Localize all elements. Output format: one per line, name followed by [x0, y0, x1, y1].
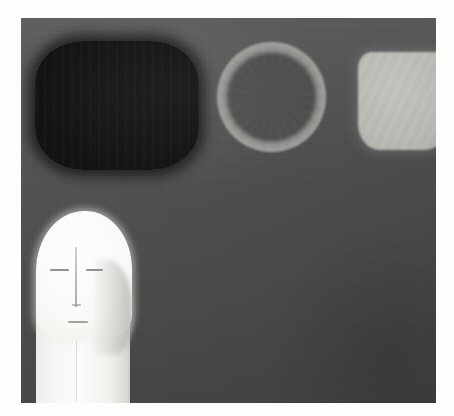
white-head-figure-shape	[30, 211, 142, 403]
ring-brushstroke-texture	[217, 42, 326, 152]
figure-eye-right	[86, 269, 103, 271]
figure-eye-left	[50, 269, 69, 271]
canvas-texture-overlay	[21, 18, 436, 403]
pale-block-shape	[358, 52, 436, 150]
light-ring-shape	[217, 42, 326, 152]
figure-neck-line	[76, 341, 77, 401]
artwork-page	[0, 0, 454, 416]
pale-block-brushstroke-texture	[358, 52, 436, 150]
figure-torso	[36, 271, 130, 403]
figure-nose-tip	[72, 304, 81, 306]
dark-rounded-rect-shape	[35, 41, 199, 170]
figure-mouth	[68, 321, 88, 323]
figure-head	[36, 211, 132, 339]
canvas-lighting-overlay	[21, 18, 436, 403]
painting-canvas	[21, 18, 436, 403]
figure-nose	[75, 247, 77, 307]
figure-cheek-shadow	[92, 259, 132, 355]
dark-rect-brushstroke-texture	[35, 41, 199, 170]
